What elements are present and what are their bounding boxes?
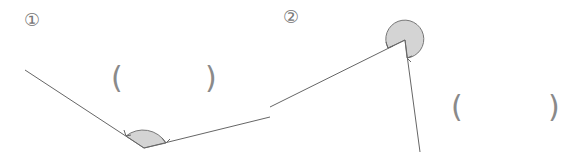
problem-2-number: ② bbox=[283, 8, 299, 26]
angle-2-arc bbox=[386, 20, 424, 58]
problem-1-number: ① bbox=[24, 11, 40, 29]
angle-1-ray-b bbox=[144, 117, 270, 148]
problem-2-answer-close: ) bbox=[548, 92, 560, 122]
problem-2-answer-field[interactable] bbox=[470, 92, 542, 122]
angle-1-arc bbox=[126, 130, 166, 148]
angle-2 bbox=[270, 20, 424, 152]
problem-1-answer-close: ) bbox=[205, 63, 217, 93]
angle-2-ray-a bbox=[270, 40, 405, 107]
problem-1-answer-field[interactable] bbox=[130, 63, 200, 93]
problem-2-answer-open: ( bbox=[451, 92, 463, 122]
problem-1-answer-open: ( bbox=[111, 63, 123, 93]
